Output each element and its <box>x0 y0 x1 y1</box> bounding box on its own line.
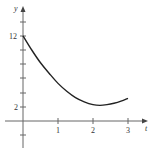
chart: t y 1 2 3 12 2 <box>0 0 150 151</box>
y-tick-label-12: 12 <box>9 32 17 41</box>
x-tick-label-1: 1 <box>56 126 60 135</box>
y-axis-label: y <box>13 4 18 13</box>
x-axis-arrow-icon <box>142 119 148 124</box>
y-tick-label-2: 2 <box>14 103 18 112</box>
x-axis-label: t <box>145 124 148 133</box>
x-tick-label-2: 2 <box>91 126 95 135</box>
x-tick-label-3: 3 <box>126 126 130 135</box>
curve-line <box>23 36 128 106</box>
y-axis-arrow-icon <box>21 6 26 12</box>
